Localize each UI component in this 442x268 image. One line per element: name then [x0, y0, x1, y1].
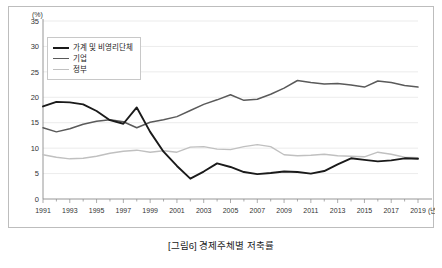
y-tick-label: 10 [31, 144, 39, 153]
legend-swatch-government [53, 69, 69, 70]
x-tick-label: 1997 [116, 207, 132, 214]
legend-label-government: 정부 [73, 64, 87, 75]
series-line-corporate [43, 81, 418, 132]
legend-swatch-corporate [53, 58, 69, 59]
x-tick-label: 1999 [142, 207, 158, 214]
x-tick-label: 2005 [223, 207, 239, 214]
x-tick-label: 2013 [330, 207, 346, 214]
figure-container: 05101520253035(%)19911993199519971999200… [8, 6, 434, 228]
series-line-government [43, 145, 418, 159]
x-tick-label: 2019 [410, 207, 426, 214]
legend-label-corporate: 기업 [73, 53, 87, 64]
legend-item-household: 가계 및 비영리단체 [53, 42, 133, 53]
chart-legend: 가계 및 비영리단체 기업 정부 [47, 37, 141, 80]
legend-swatch-household [53, 47, 69, 49]
x-tick-label: 2001 [169, 207, 185, 214]
legend-item-government: 정부 [53, 64, 133, 75]
x-axis-unit-label: (년) [428, 206, 435, 215]
y-axis-unit-label: (%) [32, 11, 43, 19]
x-tick-label: 1991 [35, 207, 51, 214]
x-tick-label: 2003 [196, 207, 212, 214]
x-tick-label: 2007 [249, 207, 265, 214]
x-tick-label: 2011 [303, 207, 318, 214]
x-tick-label: 2015 [357, 207, 373, 214]
figure-caption: [그림6] 경제주체별 저축률 [0, 238, 442, 252]
series-line-household [43, 102, 418, 179]
x-tick-label: 2009 [276, 207, 292, 214]
y-tick-label: 20 [31, 93, 39, 102]
x-tick-label: 2017 [383, 207, 399, 214]
legend-label-household: 가계 및 비영리단체 [73, 42, 133, 53]
y-tick-label: 35 [31, 17, 39, 26]
legend-item-corporate: 기업 [53, 53, 133, 64]
y-tick-label: 30 [31, 42, 39, 51]
x-tick-label: 1995 [89, 207, 105, 214]
x-tick-label: 1993 [62, 207, 78, 214]
y-tick-label: 5 [35, 169, 39, 178]
y-tick-label: 0 [35, 195, 39, 204]
y-tick-label: 15 [31, 118, 39, 127]
y-tick-label: 25 [31, 68, 39, 77]
